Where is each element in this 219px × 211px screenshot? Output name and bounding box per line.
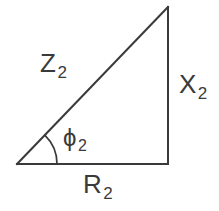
label-phi2: ϕ2 — [63, 126, 86, 150]
label-x2-symbol: X — [179, 69, 197, 99]
angle-arc-phi2 — [45, 135, 57, 164]
label-z2-symbol: Z — [40, 48, 56, 78]
label-x2-subscript: 2 — [198, 84, 207, 103]
label-r2-subscript: 2 — [103, 184, 112, 203]
hypotenuse-line-z2 — [17, 7, 168, 164]
label-z2: Z2 — [40, 50, 66, 76]
label-phi2-symbol: ϕ — [63, 124, 77, 151]
label-z2-subscript: 2 — [57, 63, 66, 82]
label-r2: R2 — [83, 171, 112, 197]
label-x2: X2 — [179, 71, 206, 97]
label-phi2-subscript: 2 — [78, 137, 87, 154]
impedance-triangle-diagram: Z2 X2 R2 ϕ2 — [0, 0, 219, 211]
label-r2-symbol: R — [83, 169, 102, 199]
